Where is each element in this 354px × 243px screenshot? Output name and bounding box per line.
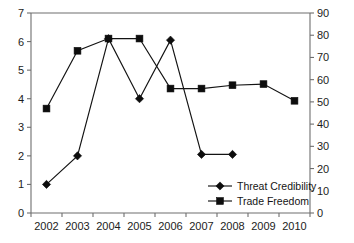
x-axis-tick-label: 2004: [96, 220, 120, 232]
legend-item-trade-freedom: Trade Freedom: [208, 195, 309, 207]
y-axis-left-tick-label: 7: [18, 7, 24, 19]
y-axis-left-tick-label: 6: [18, 36, 24, 48]
y-axis-left-tick-label: 3: [18, 121, 24, 133]
data-point-square: [291, 97, 298, 104]
series-line: [47, 39, 233, 185]
y-axis-right-tick-label: 0: [317, 207, 323, 219]
y-axis-right-tick-label: 50: [317, 96, 329, 108]
x-axis-tick-label: 2006: [158, 220, 182, 232]
x-axis-tick-label: 2008: [220, 220, 244, 232]
line-chart: 0123456701020304050607080902002200320042…: [0, 0, 354, 243]
x-axis-tick-label: 2007: [189, 220, 213, 232]
data-point-square: [217, 198, 224, 205]
x-axis-tick-label: 2002: [34, 220, 58, 232]
data-point-diamond: [135, 95, 143, 103]
data-point-square: [105, 35, 112, 42]
y-axis-right-tick-label: 20: [317, 163, 329, 175]
data-point-square: [136, 35, 143, 42]
y-axis-right-tick-label: 90: [317, 7, 329, 19]
y-axis-left-tick-label: 1: [18, 178, 24, 190]
y-axis-right-tick-label: 30: [317, 140, 329, 152]
data-point-diamond: [228, 150, 236, 158]
y-axis-left-tick-label: 5: [18, 64, 24, 76]
x-axis-tick-label: 2010: [282, 220, 306, 232]
x-axis-tick-label: 2009: [251, 220, 275, 232]
y-axis-left-tick-label: 4: [18, 93, 24, 105]
chart-legend: Threat CredibilityTrade Freedom: [208, 180, 317, 207]
y-axis-right-tick-label: 60: [317, 74, 329, 86]
data-point-square: [260, 81, 267, 88]
data-point-square: [74, 47, 81, 54]
series-threat-credibility: [42, 35, 236, 189]
y-axis-left-tick-label: 0: [18, 207, 24, 219]
y-axis-right-tick-label: 70: [317, 51, 329, 63]
data-point-diamond: [166, 36, 174, 44]
y-axis-right-tick-label: 40: [317, 118, 329, 130]
x-axis-tick-label: 2003: [65, 220, 89, 232]
data-point-square: [167, 85, 174, 92]
legend-label: Trade Freedom: [237, 195, 309, 207]
data-point-diamond: [197, 150, 205, 158]
y-axis-right-tick-label: 10: [317, 185, 329, 197]
x-axis-tick-label: 2005: [127, 220, 151, 232]
data-point-square: [43, 105, 50, 112]
legend-label: Threat Credibility: [237, 180, 317, 192]
legend-item-threat-credibility: Threat Credibility: [208, 180, 317, 192]
series-trade-freedom: [43, 35, 298, 112]
data-point-square: [229, 82, 236, 89]
data-point-diamond: [216, 182, 224, 190]
series-layer: [42, 35, 298, 189]
series-line: [47, 39, 295, 109]
y-axis-left-tick-label: 2: [18, 150, 24, 162]
data-point-square: [198, 85, 205, 92]
y-axis-right-tick-label: 80: [317, 29, 329, 41]
chart-container: 0123456701020304050607080902002200320042…: [0, 0, 354, 243]
